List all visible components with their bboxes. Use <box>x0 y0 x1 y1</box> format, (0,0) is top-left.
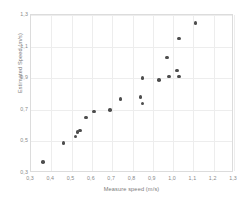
gridline-horizontal <box>31 47 232 48</box>
x-tick-label: 0,9 <box>143 175 161 181</box>
gridline-horizontal <box>31 110 232 111</box>
gridline-vertical <box>133 15 134 171</box>
gridline-vertical <box>51 15 52 171</box>
x-tick-label: 1,2 <box>204 175 222 181</box>
data-point <box>139 95 143 99</box>
gridline-vertical <box>112 15 113 171</box>
gridline-vertical <box>92 15 93 171</box>
data-point <box>141 76 145 80</box>
data-point <box>108 108 112 112</box>
data-point <box>119 97 123 101</box>
gridline-vertical <box>173 15 174 171</box>
y-axis-title: Estimated Speed (m/s) <box>17 3 23 123</box>
x-tick-label: 1,0 <box>163 175 181 181</box>
data-point <box>74 135 78 139</box>
x-tick-label: 0,6 <box>82 175 100 181</box>
gridline-vertical <box>234 15 235 171</box>
data-point <box>157 78 161 82</box>
x-tick-label: 1,1 <box>183 175 201 181</box>
x-tick-label: 0,5 <box>62 175 80 181</box>
data-point <box>175 69 179 73</box>
gridline-vertical <box>72 15 73 171</box>
data-point <box>41 160 45 164</box>
data-point <box>92 110 96 114</box>
x-tick-label: 0,7 <box>102 175 120 181</box>
plot-area <box>30 14 233 172</box>
data-point <box>78 129 82 133</box>
x-tick-label: 0,3 <box>21 175 39 181</box>
data-point <box>84 116 88 120</box>
gridline-horizontal <box>31 78 232 79</box>
y-axis-title-wrapper: Estimated Speed (m/s) <box>0 0 14 175</box>
scatter-chart: 0,30,40,50,60,70,80,91,01,11,21,3 0,30,5… <box>0 0 248 202</box>
x-axis-title: Measure speed (m/s) <box>30 186 233 192</box>
y-tick-label: 0,5 <box>12 137 28 143</box>
y-tick-label: 0,3 <box>12 169 28 175</box>
gridline-vertical <box>214 15 215 171</box>
data-point <box>141 102 145 106</box>
gridline-horizontal <box>31 15 232 16</box>
data-point <box>194 21 198 25</box>
data-point <box>62 141 66 145</box>
data-point <box>165 56 169 60</box>
gridline-vertical <box>193 15 194 171</box>
x-tick-label: 1,3 <box>224 175 242 181</box>
data-point <box>177 37 181 41</box>
x-tick-label: 0,4 <box>41 175 59 181</box>
gridline-vertical <box>153 15 154 171</box>
x-tick-label: 0,8 <box>123 175 141 181</box>
